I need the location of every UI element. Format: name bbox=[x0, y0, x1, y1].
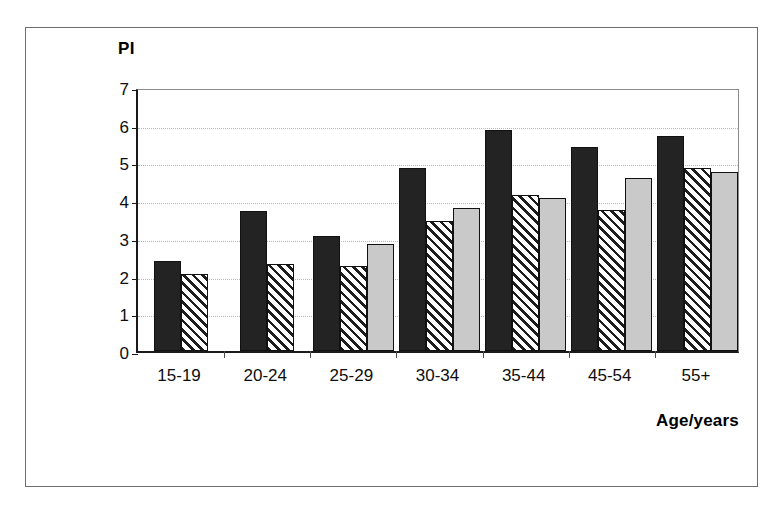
bar bbox=[340, 266, 367, 351]
x-axis-category-label: 30-34 bbox=[394, 366, 480, 386]
bar bbox=[625, 178, 652, 351]
bar-group bbox=[655, 90, 741, 351]
x-axis-category-label: 45-54 bbox=[567, 366, 653, 386]
x-axis-tick bbox=[655, 351, 656, 358]
x-axis-category-label: 25-29 bbox=[308, 366, 394, 386]
bar bbox=[426, 221, 453, 351]
bar bbox=[657, 136, 684, 351]
bar bbox=[512, 195, 539, 352]
bar bbox=[598, 210, 625, 351]
bar-group bbox=[224, 90, 310, 351]
figure-frame: PI 01234567 Age/years 15-1920-2425-2930-… bbox=[25, 27, 758, 487]
y-axis-tick bbox=[132, 354, 138, 355]
x-axis-title: Age/years bbox=[656, 411, 739, 431]
y-axis-tick-label: 3 bbox=[120, 231, 129, 251]
bar-group bbox=[483, 90, 569, 351]
bar bbox=[711, 172, 738, 351]
bar-group bbox=[396, 90, 482, 351]
x-axis-category-label: 20-24 bbox=[222, 366, 308, 386]
bar bbox=[154, 261, 181, 352]
y-axis-tick-label: 1 bbox=[120, 306, 129, 326]
bar bbox=[453, 208, 480, 351]
bar bbox=[571, 147, 598, 351]
x-axis-tick bbox=[310, 351, 311, 358]
x-axis-tick bbox=[483, 351, 484, 358]
bar bbox=[240, 211, 267, 351]
bar bbox=[684, 168, 711, 351]
bar bbox=[539, 198, 566, 351]
y-axis-tick-label: 0 bbox=[120, 344, 129, 364]
bar-group bbox=[138, 90, 224, 351]
x-axis-tick bbox=[569, 351, 570, 358]
bar bbox=[367, 244, 394, 351]
bar bbox=[485, 130, 512, 351]
y-axis-tick-label: 4 bbox=[120, 193, 129, 213]
bar bbox=[313, 236, 340, 351]
plot-area: 01234567 bbox=[136, 89, 739, 353]
x-axis-category-label: 55+ bbox=[653, 366, 739, 386]
y-axis-tick-label: 7 bbox=[120, 80, 129, 100]
bar-group bbox=[569, 90, 655, 351]
bar-group bbox=[310, 90, 396, 351]
bar-chart: PI 01234567 Age/years 15-1920-2425-2930-… bbox=[26, 28, 759, 488]
bar bbox=[181, 274, 208, 351]
bar bbox=[267, 264, 294, 351]
x-axis-category-label: 15-19 bbox=[136, 366, 222, 386]
bar bbox=[399, 168, 426, 351]
x-axis-tick bbox=[396, 351, 397, 358]
y-axis-tick-label: 6 bbox=[120, 118, 129, 138]
x-axis-category-label: 35-44 bbox=[481, 366, 567, 386]
y-axis-title: PI bbox=[118, 39, 135, 59]
y-axis-tick-label: 5 bbox=[120, 155, 129, 175]
x-axis-tick bbox=[224, 351, 225, 358]
y-axis-tick-label: 2 bbox=[120, 269, 129, 289]
